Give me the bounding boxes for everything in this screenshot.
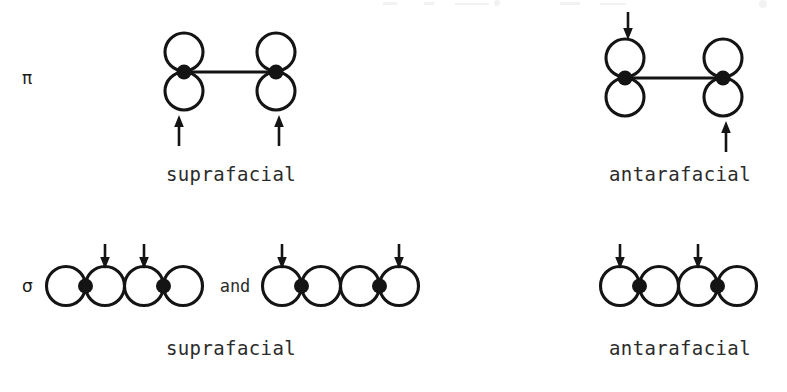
orbital-node-dot — [716, 71, 731, 86]
conjunction-and: and — [220, 276, 251, 296]
sigma-node-dot — [710, 279, 725, 294]
caption-antarafacial-pi: antarafacial — [609, 163, 751, 185]
caption-suprafacial-pi: suprafacial — [166, 163, 296, 185]
approach-arrow-top-left — [623, 12, 633, 40]
arrow-head-up — [174, 115, 184, 127]
orbital-symmetry-figure: π — [0, 0, 787, 392]
approach-arrow-bottom-right — [721, 121, 731, 152]
scan-artifact-row — [383, 0, 767, 8]
sigma-antarafacial-chain-1 — [601, 244, 757, 306]
arrow-head-up — [721, 121, 731, 133]
caption-suprafacial-sigma: suprafacial — [166, 337, 296, 359]
orbital-node-dot — [618, 71, 633, 86]
arrow-head-up — [274, 115, 284, 127]
row-symbol-sigma: σ — [22, 276, 33, 296]
pi-suprafacial-panel: suprafacial — [165, 33, 296, 185]
orbital-node-dot — [177, 65, 192, 80]
sigma-suprafacial-chain-1 — [47, 244, 203, 306]
caption-antarafacial-sigma: antarafacial — [609, 337, 751, 359]
diagram-canvas: π — [0, 0, 787, 392]
sigma-node-dot — [632, 279, 647, 294]
row-symbol-pi: π — [22, 68, 32, 88]
sigma-node-dot — [78, 279, 93, 294]
sigma-node-dot — [372, 279, 387, 294]
orbital-node-dot — [269, 65, 284, 80]
sigma-node-dot — [156, 279, 171, 294]
approach-arrow-bottom-right — [274, 115, 284, 146]
approach-arrow-bottom-left — [174, 115, 184, 146]
sigma-suprafacial-chain-2 — [263, 244, 419, 306]
sigma-node-dot — [294, 279, 309, 294]
pi-antarafacial-panel: antarafacial — [606, 12, 751, 185]
